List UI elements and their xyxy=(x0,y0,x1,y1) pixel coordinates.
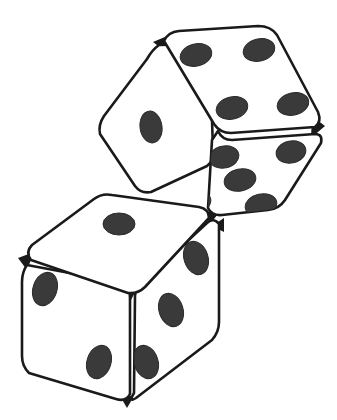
dice-scene-svg xyxy=(0,0,337,420)
dice-illustration-canvas xyxy=(0,0,337,420)
die-pip xyxy=(103,213,135,235)
lower-die-top-face-pips xyxy=(103,213,135,235)
